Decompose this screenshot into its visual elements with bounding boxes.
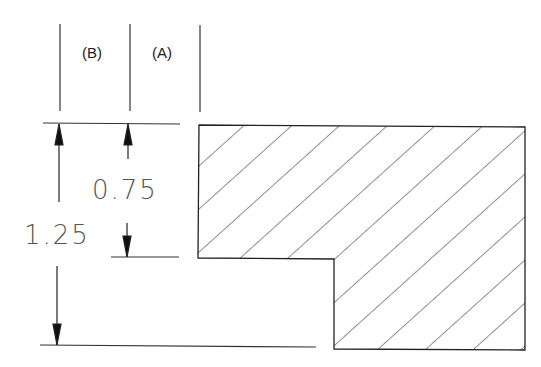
drawing-canvas: (B) (A) 0.75 1.25 bbox=[0, 0, 541, 367]
hatched-section bbox=[198, 125, 525, 350]
column-divider-lines bbox=[60, 24, 200, 112]
column-label-b: (B) bbox=[82, 44, 102, 61]
column-label-a: (A) bbox=[152, 44, 172, 61]
dimension-label-1-25: 1.25 bbox=[24, 220, 90, 250]
dimension-label-0-75: 0.75 bbox=[92, 175, 158, 205]
